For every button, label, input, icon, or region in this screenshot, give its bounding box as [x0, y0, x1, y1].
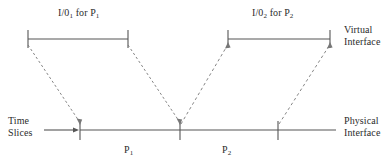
io2-label-for: for P — [267, 7, 290, 18]
physical-interface-label-line2: Interface — [344, 127, 380, 139]
p2-slice-label: P2 — [222, 144, 231, 158]
physical-interface-timeline — [80, 121, 336, 140]
time-slices-label-line1: Time — [8, 115, 33, 127]
io1-label: I/01 for P1 — [58, 7, 99, 21]
connector-io1-start-to-p1-start — [28, 45, 82, 125]
interface-timing-diagram: I/01 for P1 I/02 for P2 Virtual Interfac… — [0, 0, 388, 168]
p1-slice-label-subscript: 1 — [130, 149, 134, 157]
io2-label-text: I/0 — [252, 7, 263, 18]
time-slices-arrow-head — [73, 127, 79, 132]
connector-io2-end-arrowhead — [327, 42, 333, 49]
connector-p2-end-to-io2-end — [279, 42, 333, 124]
io1-label-for: for P — [73, 7, 96, 18]
p1-slice-label: P1 — [124, 144, 133, 158]
connector-io1-end-to-p1-end — [128, 45, 182, 125]
connector-io2-start-line — [181, 46, 227, 124]
p2-slice-label-subscript: 2 — [228, 149, 232, 157]
physical-interface-label-line1: Physical — [344, 115, 380, 127]
io2-label: I/02 for P2 — [252, 7, 293, 21]
io1-label-process-subscript: 1 — [96, 12, 100, 20]
virtual-interface-timeline — [28, 30, 330, 48]
p2-slice-label-text: P — [222, 144, 228, 155]
physical-interface-label: Physical Interface — [344, 115, 380, 138]
io2-label-subscript: 2 — [263, 12, 267, 20]
time-slices-arrow — [44, 127, 79, 132]
time-slices-label-line2: Slices — [8, 127, 33, 139]
virtual-interface-label-line1: Virtual — [344, 24, 380, 36]
virtual-segment-io1 — [28, 30, 128, 48]
connector-io1-start-arrowhead — [77, 119, 83, 125]
mapping-connectors — [28, 42, 333, 125]
virtual-interface-label: Virtual Interface — [344, 24, 380, 47]
connector-io2-start-arrowhead — [225, 42, 231, 49]
connector-io2-end-line — [279, 46, 329, 124]
diagram-canvas — [0, 0, 388, 168]
connector-io1-end-line — [128, 45, 179, 121]
connector-io1-start-line — [28, 45, 79, 121]
io1-label-subscript: 1 — [69, 12, 73, 20]
time-slices-label: Time Slices — [8, 115, 33, 138]
virtual-segment-io2 — [228, 30, 330, 48]
io1-label-text: I/0 — [58, 7, 69, 18]
virtual-interface-label-line2: Interface — [344, 36, 380, 48]
p1-slice-label-text: P — [124, 144, 130, 155]
io2-label-process-subscript: 2 — [290, 12, 294, 20]
connector-p2-start-to-io2-start — [181, 42, 231, 124]
